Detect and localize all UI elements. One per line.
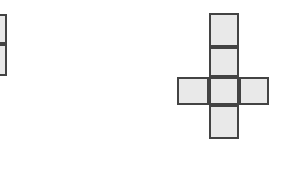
- diagram-canvas: [0, 0, 302, 186]
- right-cross-net-shape: [0, 0, 302, 186]
- cross-cell-right: [239, 77, 269, 105]
- cross-cell-column-1: [209, 13, 239, 47]
- cross-cell-left: [177, 77, 209, 105]
- cross-cell-center: [209, 77, 239, 105]
- cross-cell-column-2: [209, 47, 239, 77]
- cross-cell-bottom: [209, 105, 239, 139]
